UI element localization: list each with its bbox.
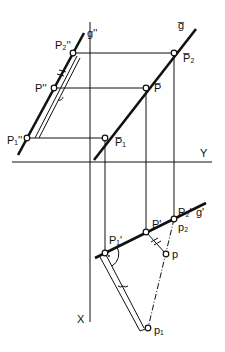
point-P-double-prime [51, 85, 57, 91]
labels: g'' P₂'' P'' P₁'' g̅ P̅₂ P̅ P̅₁ Y P₂' g'… [7, 19, 208, 336]
label-P1-prime: P₁' [109, 234, 122, 246]
label-P-prime: P' [152, 218, 161, 230]
rotated-segment-a [105, 253, 144, 328]
construction-lines [12, 22, 212, 331]
true-length-a [35, 56, 77, 138]
right-angle-dot [108, 255, 110, 257]
point-P1-bar [102, 135, 108, 141]
label-P2-prime: P₂' [178, 206, 192, 218]
point-P2-double-prime [70, 50, 76, 56]
label-axis-x: X [77, 313, 85, 325]
tick-marks [57, 70, 161, 245]
point-p1 [145, 325, 151, 331]
rotated-segment-b [100, 257, 140, 331]
point-P1-prime [102, 250, 108, 256]
point-P2-prime [171, 216, 177, 222]
label-P-bar: P̅ [153, 82, 161, 94]
label-p2: p₂ [178, 221, 188, 233]
label-g-bar: g̅ [177, 19, 185, 31]
point-p [163, 251, 169, 257]
line-g-bar [94, 29, 196, 160]
label-P1-bar: P̅₁ [114, 136, 126, 148]
label-g-double-prime: g'' [87, 27, 97, 39]
projection-diagram: g'' P₂'' P'' P₁'' g̅ P̅₂ P̅ P̅₁ Y P₂' g'… [0, 0, 225, 352]
label-p: p [172, 248, 178, 260]
point-P-bar [143, 85, 149, 91]
label-P2-bar: P̅₂ [182, 52, 194, 64]
label-g-prime: g' [196, 206, 204, 218]
point-P1-double-prime [24, 135, 30, 141]
label-P1-double-prime: P₁'' [7, 134, 22, 146]
label-axis-y: Y [200, 147, 208, 159]
label-P2-double-prime: P₂'' [55, 39, 71, 51]
point-P2-bar [171, 50, 177, 56]
label-p1: p₁ [154, 324, 164, 336]
point-P-prime [143, 229, 149, 235]
dashdot-line [148, 219, 174, 328]
label-P-double-prime: P'' [35, 82, 47, 94]
segment-pprime-p [146, 232, 166, 254]
